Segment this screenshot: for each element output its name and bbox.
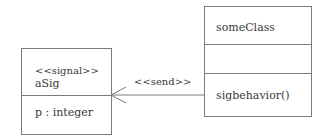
class-operations-compartment: sigbehavior() xyxy=(205,74,311,116)
class-name: someClass xyxy=(216,21,275,34)
send-dependency-label: <<send>> xyxy=(134,75,191,88)
class-someclass[interactable]: someClass sigbehavior() xyxy=(204,6,312,117)
signal-class-asig[interactable]: <<signal>> aSig p : integer xyxy=(21,48,112,135)
signal-attributes-compartment: p : integer xyxy=(22,96,111,134)
class-operation: sigbehavior() xyxy=(216,89,290,102)
signal-attribute: p : integer xyxy=(35,106,93,119)
class-name-compartment: someClass xyxy=(205,7,311,45)
class-attributes-compartment xyxy=(205,45,311,74)
signal-stereotype: <<signal>> xyxy=(35,64,99,77)
signal-class-name: aSig xyxy=(35,77,60,90)
signal-name-compartment: <<signal>> aSig xyxy=(22,49,111,96)
